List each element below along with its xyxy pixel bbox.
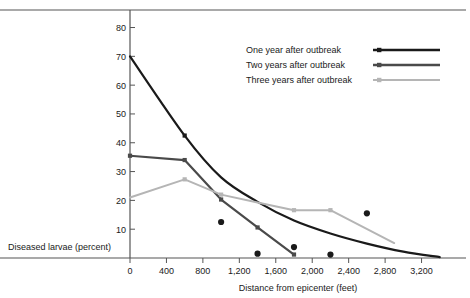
legend-label-2: Three years after outbreak (246, 75, 353, 85)
series-marker-1 (128, 154, 132, 158)
x-tick-label: 0 (127, 266, 132, 276)
legend-label-1: Two years after outbreak (246, 60, 346, 70)
chart-container: 1020304050607080 04008001,2001,6002,0002… (0, 0, 470, 298)
x-tick-label: 800 (195, 266, 210, 276)
chart-background (0, 0, 470, 298)
x-tick-label: 400 (159, 266, 174, 276)
scatter-point (327, 251, 333, 257)
x-tick-label: 2,800 (374, 266, 397, 276)
y-tick-label: 20 (116, 196, 126, 206)
series-marker-1 (292, 252, 296, 256)
x-tick-label: 1,200 (228, 266, 251, 276)
legend-label-0: One year after outbreak (246, 45, 342, 55)
y-tick-label: 80 (116, 23, 126, 33)
y-tick-label: 10 (116, 225, 126, 235)
series-marker-1 (255, 225, 259, 229)
series-marker-1 (183, 158, 187, 162)
series-marker-2 (292, 208, 296, 212)
series-marker-2 (328, 208, 332, 212)
x-axis-title: Distance from epicenter (feet) (239, 283, 358, 293)
y-tick-label: 70 (116, 52, 126, 62)
larvae-distance-line-chart: 1020304050607080 04008001,2001,6002,0002… (0, 0, 470, 298)
series-marker-0 (183, 133, 187, 137)
x-tick-label: 1,600 (265, 266, 288, 276)
x-tick-label: 2,400 (337, 266, 360, 276)
scatter-point (254, 251, 260, 257)
series-marker-1 (219, 197, 223, 201)
x-tick-label: 2,000 (301, 266, 324, 276)
series-marker-2 (219, 193, 223, 197)
y-tick-label: 50 (116, 109, 126, 119)
scatter-point (218, 219, 224, 225)
series-marker-2 (183, 177, 187, 181)
y-axis-title: Diseased larvae (percent) (8, 242, 111, 252)
scatter-point (291, 244, 297, 250)
legend-swatch-marker-0 (377, 48, 381, 52)
y-tick-label: 30 (116, 167, 126, 177)
legend-swatch-marker-2 (377, 78, 381, 82)
y-tick-label: 40 (116, 138, 126, 148)
scatter-point (364, 210, 370, 216)
y-tick-label: 60 (116, 81, 126, 91)
legend-swatch-marker-1 (377, 63, 381, 67)
x-tick-label: 3,200 (410, 266, 433, 276)
